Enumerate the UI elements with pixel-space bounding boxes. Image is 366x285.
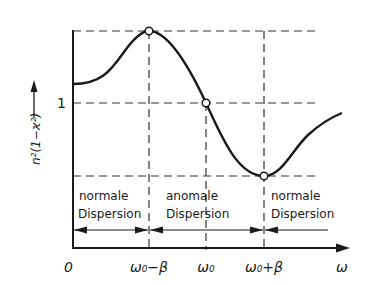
region-3-line2: Dispersion [271, 207, 334, 221]
x-tick-omega0-plus-beta: ω₀+β [245, 259, 283, 275]
region-2-line1: anomale [166, 189, 218, 203]
arrow-right-icon [250, 227, 263, 234]
region-labels: normale Dispersion anomale Dispersion no… [78, 189, 334, 221]
region-3-line1: normale [271, 189, 320, 203]
x-tick-omega0: ω₀ [197, 259, 215, 275]
arrow-left-icon [74, 227, 87, 234]
region-2-line2: Dispersion [166, 207, 229, 221]
dispersion-diagram: n²(1−ϰ²) 1 normale Dispersion anomale Di… [0, 0, 366, 285]
arrow-right-icon [135, 227, 148, 234]
region-1-line1: normale [79, 189, 128, 203]
y-tick-1: 1 [57, 95, 66, 111]
unity-point [202, 99, 210, 107]
x-tick-omega0-minus-beta: ω₀−β [130, 259, 168, 275]
x-axis-label: ω [336, 259, 348, 275]
origin-label: 0 [64, 259, 73, 275]
region-arrows [74, 227, 328, 234]
y-axis-label-group: n²(1−ϰ²) [29, 113, 43, 165]
arrow-left-icon [150, 227, 163, 234]
arrow-left-icon [265, 227, 278, 234]
x-axis-arrow-icon [336, 244, 350, 253]
y-label-arrow-icon [31, 80, 38, 92]
minimum-point [260, 172, 268, 180]
y-axis-label: n²(1−ϰ²) [29, 113, 43, 165]
region-1-line2: Dispersion [78, 207, 141, 221]
x-axis-labels: 0 ω₀−β ω₀ ω₀+β ω [64, 259, 348, 275]
maximum-point [145, 27, 153, 35]
